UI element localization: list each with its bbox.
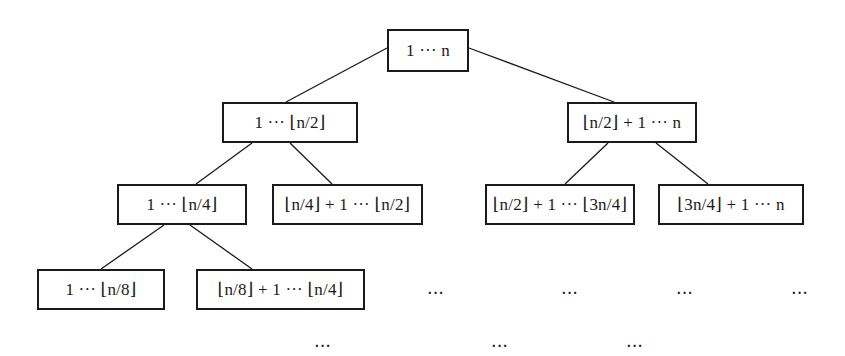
- node-fourth-quarter: ⌊3n/4⌋ + 1 ··· n: [658, 184, 804, 225]
- tree-edge: [290, 143, 332, 184]
- ellipsis-continuation: ···: [626, 340, 643, 354]
- tree-edge: [656, 143, 708, 184]
- tree-edge: [469, 48, 614, 102]
- node-left-half: 1 ··· ⌊n/2⌋: [222, 102, 358, 143]
- node-right-half: ⌊n/2⌋ + 1 ··· n: [567, 102, 697, 143]
- ellipsis-continuation: ···: [314, 340, 331, 354]
- recursion-tree-diagram: 1 ··· n 1 ··· ⌊n/2⌋ ⌊n/2⌋ + 1 ··· n 1 ··…: [0, 0, 845, 356]
- tree-edge: [565, 143, 608, 184]
- node-label: 1 ··· ⌊n/2⌋: [254, 112, 325, 133]
- tree-edge: [196, 143, 252, 184]
- ellipsis-continuation: ···: [676, 287, 693, 301]
- ellipsis-continuation: ···: [561, 287, 578, 301]
- tree-edge: [286, 48, 387, 102]
- node-label: ⌊n/2⌋ + 1 ··· n: [583, 112, 682, 133]
- tree-edge: [101, 225, 164, 269]
- node-label: 1 ··· ⌊n/8⌋: [65, 279, 136, 300]
- node-first-eighth: 1 ··· ⌊n/8⌋: [37, 269, 165, 310]
- node-third-quarter: ⌊n/2⌋ + 1 ··· ⌊3n/4⌋: [485, 184, 635, 225]
- node-second-quarter: ⌊n/4⌋ + 1 ··· ⌊n/2⌋: [272, 184, 423, 225]
- node-root-1-to-n: 1 ··· n: [387, 29, 469, 72]
- node-label: ⌊3n/4⌋ + 1 ··· n: [677, 194, 784, 215]
- node-label: ⌊n/2⌋ + 1 ··· ⌊3n/4⌋: [493, 194, 628, 215]
- tree-edge: [190, 225, 252, 269]
- node-label: 1 ··· ⌊n/4⌋: [146, 194, 217, 215]
- node-first-quarter: 1 ··· ⌊n/4⌋: [117, 184, 247, 225]
- ellipsis-continuation: ···: [791, 287, 808, 301]
- node-label: ⌊n/8⌋ + 1 ··· ⌊n/4⌋: [218, 279, 344, 300]
- node-label: ⌊n/4⌋ + 1 ··· ⌊n/2⌋: [285, 194, 411, 215]
- ellipsis-continuation: ···: [491, 340, 508, 354]
- node-label: 1 ··· n: [406, 41, 450, 61]
- ellipsis-continuation: ···: [427, 287, 444, 301]
- node-second-eighth: ⌊n/8⌋ + 1 ··· ⌊n/4⌋: [196, 269, 365, 310]
